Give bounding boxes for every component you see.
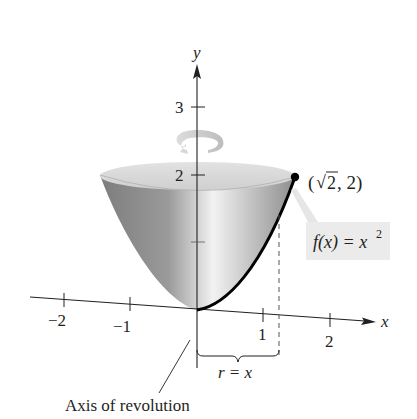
svg-text:, 2): , 2) (337, 172, 362, 194)
x-tick-label-2: 2 (325, 332, 334, 351)
y-tick-label-2: 2 (175, 166, 184, 185)
svg-text:√: √ (316, 172, 326, 192)
x-tick-label-neg1: −1 (113, 317, 131, 336)
x-tick-label-neg2: −2 (48, 311, 66, 330)
x-tick-label-1: 1 (258, 325, 267, 344)
function-label-pointer (291, 188, 318, 222)
y-tick-label-3: 3 (175, 98, 184, 117)
svg-text:(: ( (308, 172, 314, 194)
point-sqrt2-2 (291, 173, 299, 181)
radius-brace (197, 350, 279, 362)
point-label: ( √ 2 , 2) (308, 172, 362, 194)
rotation-arrow-icon (177, 130, 224, 154)
svg-text:2: 2 (327, 173, 336, 193)
solid-of-revolution-diagram: y x 3 2 −2 −1 1 2 ( √ 2 , 2) f(x) = x 2 … (0, 0, 417, 419)
x-axis-label: x (380, 312, 389, 331)
axis-label-leader (159, 340, 190, 393)
radius-label: r = x (218, 363, 253, 382)
axis-of-revolution-label: Axis of revolution (65, 396, 190, 415)
svg-text:f(x) = x: f(x) = x (313, 232, 367, 253)
svg-text:2: 2 (376, 227, 382, 241)
y-axis-label: y (191, 43, 201, 62)
